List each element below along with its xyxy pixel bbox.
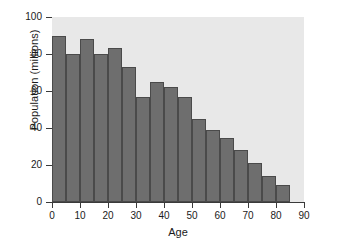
bar [122,67,136,202]
x-tick-mark [192,203,193,208]
population-age-histogram: Population (millions) 020406080100 01020… [0,0,359,248]
bar [66,54,80,202]
bar [178,97,192,202]
y-tick-label: 60 [0,85,42,96]
x-tick-label: 80 [262,210,290,221]
bar [192,119,206,202]
x-tick-mark [80,203,81,208]
bar [52,36,66,203]
bar [276,185,290,202]
x-tick-mark [248,203,249,208]
x-tick-label: 40 [150,210,178,221]
x-axis-title: Age [52,226,304,238]
bar [206,130,220,202]
bar [220,138,234,202]
x-tick-mark [276,203,277,208]
x-tick-mark [108,203,109,208]
x-tick-label: 50 [178,210,206,221]
y-tick-label: 20 [0,159,42,170]
x-tick-label: 10 [66,210,94,221]
x-tick-mark [304,203,305,208]
x-tick-mark [136,203,137,208]
bar [262,176,276,202]
y-tick-label: 0 [0,196,42,207]
y-tick-label: 100 [0,11,42,22]
x-tick-mark [220,203,221,208]
bar [248,163,262,202]
bar [150,82,164,202]
x-tick-label: 60 [206,210,234,221]
x-tick-mark [164,203,165,208]
x-tick-label: 20 [94,210,122,221]
y-tick-label: 40 [0,122,42,133]
bar [108,48,122,202]
bar [136,97,150,202]
bar [164,87,178,202]
bar [80,39,94,202]
bar [94,54,108,202]
bar [234,150,248,202]
x-tick-label: 0 [38,210,66,221]
y-tick-label: 80 [0,48,42,59]
x-tick-label: 90 [290,210,318,221]
x-tick-label: 70 [234,210,262,221]
x-tick-mark [52,203,53,208]
x-axis-line [52,202,305,203]
x-tick-label: 30 [122,210,150,221]
y-tick-mark [46,17,52,18]
